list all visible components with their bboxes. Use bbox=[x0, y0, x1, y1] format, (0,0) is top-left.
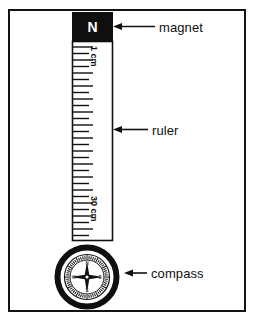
magnet-callout-label: magnet bbox=[159, 20, 203, 35]
figure-root: N S W E N 1 cm 30 cm magnet rul bbox=[0, 0, 258, 324]
apparatus-drawing: N S W E bbox=[0, 0, 258, 324]
ruler-top-scale-label: 1 cm bbox=[89, 46, 99, 67]
ruler-arrow bbox=[113, 126, 148, 133]
magnet bbox=[72, 12, 113, 42]
ruler-callout-label: ruler bbox=[152, 123, 179, 138]
magnet-arrow bbox=[113, 23, 155, 30]
compass-arrow bbox=[124, 270, 147, 277]
callout-arrows bbox=[113, 23, 155, 277]
ruler-bottom-scale-label: 30 cm bbox=[89, 196, 99, 222]
cardinal-e: E bbox=[98, 275, 101, 280]
compass: N S W E bbox=[58, 248, 117, 307]
magnet-block bbox=[72, 12, 113, 42]
compass-callout-label: compass bbox=[151, 266, 204, 281]
cardinal-s: S bbox=[85, 288, 88, 293]
cardinal-n: N bbox=[85, 261, 88, 266]
compass-pivot bbox=[85, 275, 89, 279]
